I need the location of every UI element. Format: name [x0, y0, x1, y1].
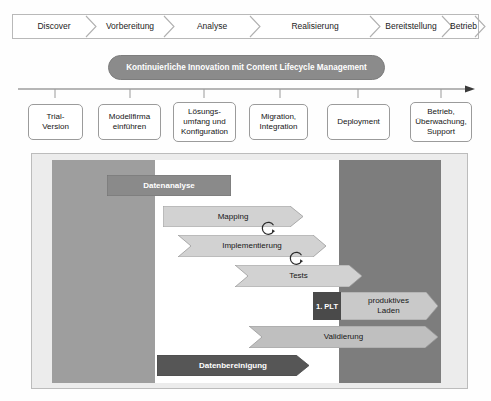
phase-chevron-label: Analyse: [197, 21, 227, 31]
step-box-betrieb[interactable]: Betrieb,Überwachung,Support: [410, 102, 472, 142]
loop-implementierung-tests-icon: [288, 249, 306, 267]
step-box-label: Lösungs-umfang undKonfiguration: [181, 107, 228, 137]
step-box-label: Betrieb,Überwachung,Support: [415, 107, 467, 137]
step-box-lösungs[interactable]: Lösungs-umfang undKonfiguration: [173, 102, 236, 142]
shape-label: Tests: [289, 271, 308, 281]
shape-label: Datenanalyse: [143, 181, 195, 191]
shape-tests: Tests: [235, 265, 362, 287]
timeline-arrow: [18, 84, 476, 98]
step-box-label: Trial-Version: [42, 112, 69, 132]
step-box-label: Modellfirmaeinführen: [109, 112, 150, 132]
phase-chevron-vorbereitung[interactable]: Vorbereitung: [91, 15, 169, 38]
shape-datenbereinigung: Datenbereinigung: [157, 355, 309, 376]
step-box-label: Deployment: [337, 117, 380, 127]
shape-label: produktivesLaden: [368, 296, 409, 315]
shape-label: Mapping: [218, 212, 249, 222]
phase-chevron-divider-icon: [474, 15, 486, 38]
phase-bar: DiscoverVorbereitungAnalyseRealisierungB…: [12, 14, 479, 39]
shape-mapping: Mapping: [163, 206, 303, 227]
phase-chevron-discover[interactable]: Discover: [17, 15, 91, 38]
shape-validierung: Validierung: [249, 326, 438, 348]
step-box-label: Migration,Integration: [260, 112, 298, 132]
phase-chevron-label: Betrieb: [450, 21, 477, 31]
shape-produktives-laden: produktivesLaden: [339, 292, 438, 320]
phase-chevron-bereitstellung[interactable]: Bereitstellung: [375, 15, 447, 38]
shape-label: Implementierung: [222, 241, 282, 251]
phase-chevron-label: Bereitstellung: [385, 21, 437, 31]
phase-chevron-label: Discover: [37, 21, 70, 31]
step-box-modellfirma[interactable]: Modellfirmaeinführen: [98, 104, 161, 140]
phase-chevron-analyse[interactable]: Analyse: [169, 15, 255, 38]
shape-label: Validierung: [324, 332, 363, 342]
phase-chevron-label: Vorbereitung: [106, 21, 154, 31]
step-box-migration[interactable]: Migration,Integration: [249, 104, 308, 140]
shape-label: Datenbereinigung: [199, 361, 267, 371]
loop-mapping-implementierung-icon: [260, 219, 278, 237]
shape-datenanalyse: Datenanalyse: [107, 175, 231, 196]
innovation-banner-label: Kontinuierliche Innovation mit Content L…: [126, 63, 367, 72]
step-box-deployment[interactable]: Deployment: [327, 104, 390, 140]
innovation-banner: Kontinuierliche Innovation mit Content L…: [108, 55, 385, 80]
phase-chevron-realisierung[interactable]: Realisierung: [255, 15, 375, 38]
plt-badge-label: 1. PLT: [316, 302, 338, 311]
step-box-trial[interactable]: Trial-Version: [28, 104, 83, 140]
phase-chevron-label: Realisierung: [291, 21, 338, 31]
plt-badge: 1. PLT: [313, 292, 341, 320]
diagram-canvas: DiscoverVorbereitungAnalyseRealisierungB…: [0, 0, 491, 401]
